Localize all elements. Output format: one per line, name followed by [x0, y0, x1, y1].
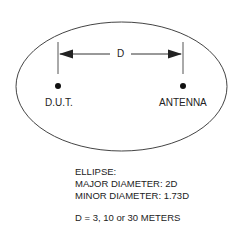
notes-title: ELLIPSE: [75, 166, 189, 178]
antenna-point [180, 83, 186, 89]
major-diameter-note: MAJOR DIAMETER: 2D [75, 178, 189, 190]
distance-label: D [117, 48, 124, 60]
arrow-left-icon [59, 50, 73, 59]
notes-block: ELLIPSE: MAJOR DIAMETER: 2D MINOR DIAMET… [75, 166, 189, 224]
dut-point [55, 83, 61, 89]
distance-note: D = 3, 10 or 30 METERS [75, 212, 189, 224]
dut-label: D.U.T. [45, 97, 73, 109]
minor-diameter-note: MINOR DIAMETER: 1.73D [75, 190, 189, 202]
test-ellipse [16, 22, 227, 151]
antenna-label: ANTENNA [159, 97, 207, 109]
arrow-right-icon [168, 50, 182, 59]
